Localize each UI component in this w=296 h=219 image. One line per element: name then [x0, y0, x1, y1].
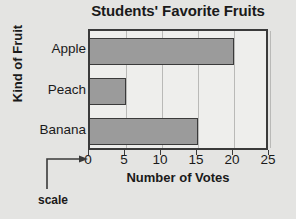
- x-axis-title: Number of Votes: [88, 170, 268, 185]
- x-axis-tick-label: 25: [253, 153, 283, 167]
- y-axis-title: Kind of Fruit: [10, 14, 25, 114]
- category-label-peach: Peach: [6, 83, 86, 97]
- plot-inner: [90, 31, 266, 148]
- bar-chart: Students' Favorite Fruits Kind of Fruit …: [0, 0, 296, 219]
- category-label-apple: Apple: [6, 42, 86, 56]
- x-axis-tick-label: 20: [217, 153, 247, 167]
- scale-annotation-label: scale: [38, 193, 68, 207]
- x-axis-tick-label: 15: [181, 153, 211, 167]
- x-axis-tick-label: 0: [73, 153, 103, 167]
- x-axis-tick-label: 10: [145, 153, 175, 167]
- bar-banana: [89, 118, 198, 145]
- chart-title: Students' Favorite Fruits: [60, 2, 296, 19]
- bar-peach: [89, 78, 126, 105]
- plot-area: [88, 29, 268, 150]
- bar-apple: [89, 38, 234, 65]
- gridline: [270, 31, 271, 148]
- category-label-banana: Banana: [6, 123, 86, 137]
- gridline: [234, 31, 235, 148]
- x-axis-tick-label: 5: [109, 153, 139, 167]
